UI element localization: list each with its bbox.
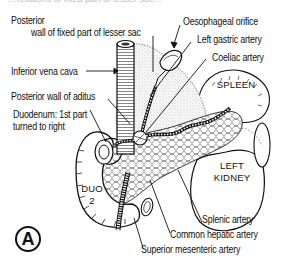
label-superior-mesenteric-artery: Superior mesenteric artery (141, 244, 240, 255)
label-posterior-wall-line1: Posterior (11, 15, 45, 26)
label-coeliac-artery: Coeliac artery (212, 52, 264, 63)
label-left-gastric-artery: Left gastric artery (197, 34, 262, 45)
label-splenic-artery: Splenic artery (202, 214, 253, 225)
organ-label-left-kidney-line1: LEFT (214, 160, 250, 171)
organ-label-duo-line1: DUO (80, 183, 104, 194)
organ-label-spleen: SPLEEN (214, 79, 258, 90)
panel-label-letter: A (22, 229, 35, 250)
inferior-vena-cava (117, 41, 134, 155)
anatomy-diagram: …relations of fixed part of lesser sac… (0, 0, 282, 269)
label-inferior-vena-cava: Inferior vena cava (11, 66, 78, 77)
label-posterior-wall-aditus: Posterior wall of aditus (11, 91, 95, 102)
label-common-hepatic-artery: Common hepatic artery (170, 229, 258, 240)
organ-label-duo-line2: 2 (80, 195, 104, 206)
organ-label-left-kidney-line2: KIDNEY (210, 172, 254, 183)
label-oesophageal-orifice: Oesophageal orifice (183, 16, 258, 27)
label-duodenum-line2: turned to right (13, 121, 65, 132)
label-posterior-wall-line2: wall of fixed part of lesser sac (31, 27, 141, 38)
label-duodenum-line1: Duodenum: 1st part (13, 109, 87, 120)
panel-label-badge: A (15, 226, 41, 252)
